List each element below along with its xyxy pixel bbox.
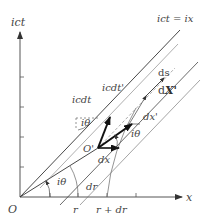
dx-prime-label: dx'	[143, 111, 158, 122]
dx-label: dx	[98, 154, 110, 165]
dr-label: dr	[86, 181, 98, 192]
dX-prime-label: dX'	[158, 84, 177, 97]
angle-arc-origin	[46, 181, 50, 197]
dX-prime-d: d	[158, 84, 165, 97]
parallel-line-2	[80, 80, 200, 205]
ds-label: ds	[158, 67, 170, 78]
spacetime-diagram: ict x O ict = ix O' icdt icdt' dx dx' ds…	[0, 0, 209, 221]
icdt-label: icdt	[72, 94, 92, 105]
origin-label: O	[8, 203, 17, 216]
x-axis-label: x	[186, 191, 193, 204]
y-axis-label: ict	[11, 16, 26, 29]
icdt-prime-label: icdt'	[102, 82, 124, 93]
o-prime-label: O'	[83, 143, 94, 154]
r-plus-dr-label: r + dr	[96, 204, 128, 215]
arc-r-plus-dr	[107, 108, 136, 197]
r-label: r	[73, 204, 79, 215]
angle-label-right: iθ	[131, 128, 140, 139]
arc-r	[70, 166, 78, 197]
angle-label-upper: iθ	[81, 117, 90, 128]
light-line-label: ict = ix	[157, 13, 194, 24]
angle-label-origin: iθ	[57, 176, 66, 187]
dX-prime-X: X'	[164, 84, 177, 97]
